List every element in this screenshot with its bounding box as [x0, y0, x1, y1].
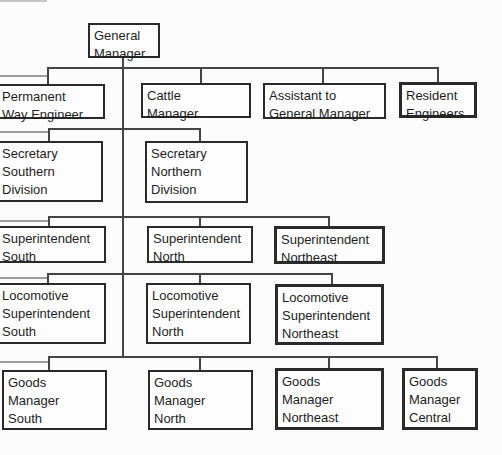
scan-artifact-line — [0, 0, 47, 2]
connector-row4-bus — [48, 216, 330, 218]
connector-drop — [322, 68, 324, 83]
connector-drop — [199, 128, 201, 142]
connector-row6-left-stub — [0, 361, 49, 363]
connector-drop — [48, 128, 50, 142]
org-chart: General Manager Permanent Way Engineer C… — [0, 0, 502, 455]
node-superintendent-northeast: Superintendent Northeast — [274, 226, 385, 264]
connector-row2-bus — [47, 67, 439, 69]
node-locomotive-superintendent-south: Locomotive Superintendent South — [0, 283, 106, 344]
connector-row3-bus — [48, 128, 201, 130]
node-superintendent-north: Superintendent North — [147, 226, 253, 263]
node-locomotive-superintendent-northeast: Locomotive Superintendent Northeast — [275, 284, 384, 345]
spine-line — [122, 58, 124, 358]
connector-row3-left-stub — [0, 131, 49, 133]
node-general-manager: General Manager — [88, 23, 160, 58]
node-locomotive-superintendent-north: Locomotive Superintendent North — [146, 283, 251, 344]
connector-row2-left-stub — [0, 75, 48, 77]
node-secretary-southern-division: Secretary Southern Division — [0, 141, 103, 202]
connector-row5-left-stub — [0, 277, 48, 279]
connector-drop — [437, 67, 439, 83]
connector-drop — [199, 356, 201, 371]
connector-row6-bus — [48, 356, 438, 358]
connector-row5-bus — [47, 273, 333, 275]
node-resident-engineers: Resident Engineers — [399, 82, 477, 118]
connector-row4-left-stub — [0, 220, 49, 222]
node-goods-manager-northeast: Goods Manager Northeast — [275, 368, 384, 430]
node-goods-manager-central: Goods Manager Central — [402, 368, 478, 430]
node-secretary-northern-division: Secretary Northern Division — [145, 141, 248, 203]
connector-drop — [200, 68, 202, 83]
node-superintendent-south: Superintendent South — [0, 226, 106, 263]
connector-drop — [48, 356, 50, 371]
node-assistant-to-general-manager: Assistant to General Manager — [263, 83, 386, 119]
node-goods-manager-north: Goods Manager North — [148, 370, 253, 430]
node-cattle-manager: Cattle Manager — [141, 83, 251, 118]
connector-drop — [47, 67, 49, 84]
node-permanent-way-engineer: Permanent Way Engineer — [0, 84, 105, 119]
node-goods-manager-south: Goods Manager South — [2, 370, 107, 430]
